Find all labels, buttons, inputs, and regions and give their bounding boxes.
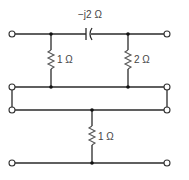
resistor-bottom <box>89 110 95 163</box>
terminals <box>9 31 170 166</box>
resistor-right <box>125 34 131 87</box>
resistor-left <box>48 34 54 87</box>
resistor-bottom-label: 1 Ω <box>98 131 114 142</box>
junction-nodes <box>49 32 130 165</box>
resistor-right-label: 2 Ω <box>134 54 150 65</box>
circuit-diagram: −j2 Ω 1 Ω 2 Ω 1 Ω <box>0 0 189 180</box>
resistor-left-label: 1 Ω <box>57 54 73 65</box>
capacitor-label: −j2 Ω <box>78 9 102 20</box>
